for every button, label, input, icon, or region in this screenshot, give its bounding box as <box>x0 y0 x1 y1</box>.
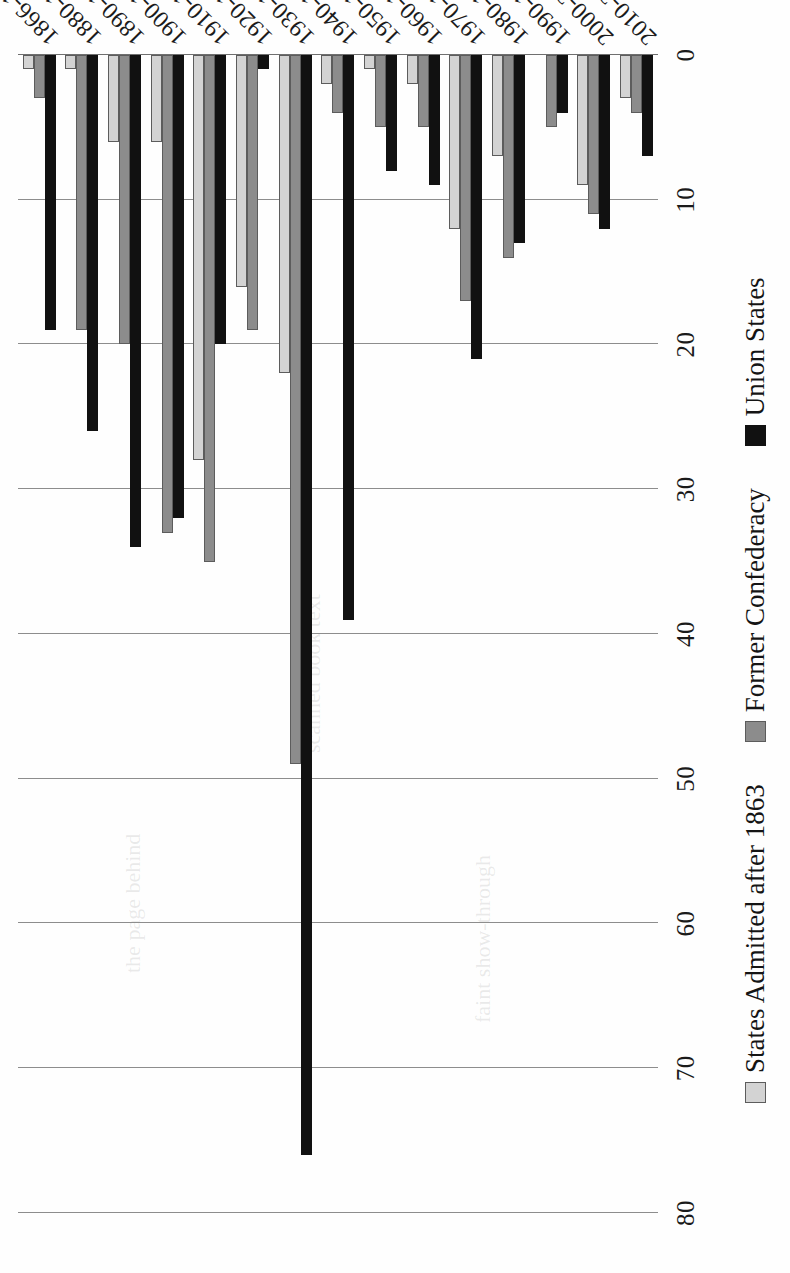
value-axis-tick-label: 50 <box>672 766 700 792</box>
bar-0 <box>620 55 631 98</box>
bar-0 <box>492 55 503 156</box>
bar-0 <box>65 55 76 69</box>
bar-0 <box>108 55 119 142</box>
bar-0 <box>279 55 290 373</box>
category-group <box>274 55 317 1213</box>
value-axis-tick-label: 60 <box>672 911 700 937</box>
bar-1 <box>418 55 429 127</box>
bar-2 <box>599 55 610 229</box>
bar-0 <box>23 55 34 69</box>
value-axis-tick-label: 30 <box>672 476 700 502</box>
legend-item: States Admitted after 1863 <box>740 784 771 1103</box>
bar-1 <box>290 55 301 764</box>
bar-0 <box>321 55 332 84</box>
bar-0 <box>577 55 588 185</box>
value-axis-tick-label: 10 <box>672 187 700 213</box>
bar-0 <box>236 55 247 287</box>
bar-0 <box>364 55 375 69</box>
value-axis-tick-label: 70 <box>672 1055 700 1081</box>
category-group <box>61 55 104 1213</box>
legend-item: Union States <box>740 277 771 446</box>
category-group <box>146 55 189 1213</box>
bar-2 <box>258 55 269 69</box>
value-axis-tick-label: 20 <box>672 332 700 358</box>
chart-legend: States Admitted after 1863Former Confede… <box>740 277 771 1103</box>
bar-2 <box>215 55 226 345</box>
bar-1 <box>162 55 173 533</box>
bar-0 <box>449 55 460 229</box>
bar-0 <box>407 55 418 84</box>
value-axis-tick-label: 80 <box>672 1200 700 1226</box>
bar-0 <box>151 55 162 142</box>
category-group <box>573 55 616 1213</box>
category-group <box>487 55 530 1213</box>
category-group <box>231 55 274 1213</box>
bar-2 <box>471 55 482 359</box>
bar-1 <box>588 55 599 214</box>
bar-1 <box>460 55 471 301</box>
black-swatch <box>745 425 766 446</box>
value-axis-tick-label: 40 <box>672 621 700 647</box>
rotated-page-wrapper: the page behind scanned book text faint … <box>0 0 790 1273</box>
value-axis-tick-label: 0 <box>672 49 700 62</box>
category-group <box>317 55 360 1213</box>
category-group <box>445 55 488 1213</box>
bar-1 <box>546 55 557 127</box>
bar-2 <box>429 55 440 185</box>
bar-2 <box>642 55 653 156</box>
bar-1 <box>375 55 386 127</box>
bar-2 <box>87 55 98 431</box>
bar-chart-figure: the page behind scanned book text faint … <box>0 0 790 1273</box>
legend-label: Union States <box>740 277 771 416</box>
bar-1 <box>76 55 87 330</box>
category-group <box>615 55 658 1213</box>
bar-1 <box>332 55 343 113</box>
bar-2 <box>386 55 397 171</box>
category-group <box>18 55 61 1213</box>
light-gray-swatch <box>745 1082 766 1103</box>
bar-2 <box>173 55 184 518</box>
bar-1 <box>247 55 258 330</box>
dark-gray-swatch <box>745 721 766 742</box>
category-group <box>103 55 146 1213</box>
bar-1 <box>119 55 130 345</box>
category-group <box>402 55 445 1213</box>
bar-2 <box>45 55 56 330</box>
legend-label: Former Confederacy <box>740 488 771 712</box>
bar-1 <box>631 55 642 113</box>
bar-0 <box>193 55 204 460</box>
category-group <box>189 55 232 1213</box>
bar-2 <box>557 55 568 113</box>
category-group <box>530 55 573 1213</box>
legend-label: States Admitted after 1863 <box>740 784 771 1073</box>
bar-2 <box>301 55 312 1155</box>
bar-2 <box>130 55 141 547</box>
bar-2 <box>343 55 354 620</box>
plot-area: 010203040506070801866-18791880-18891890-… <box>18 55 658 1213</box>
bar-1 <box>34 55 45 98</box>
bar-1 <box>204 55 215 562</box>
legend-item: Former Confederacy <box>740 488 771 742</box>
bar-2 <box>514 55 525 243</box>
category-group <box>359 55 402 1213</box>
bar-1 <box>503 55 514 258</box>
